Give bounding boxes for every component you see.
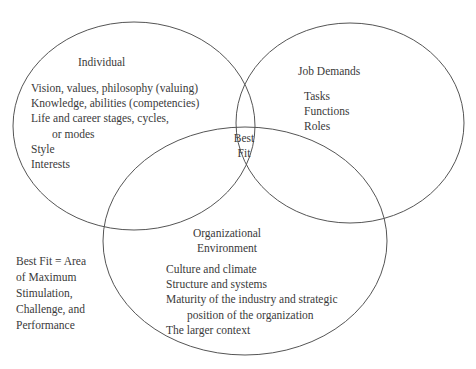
list-item: The larger context	[166, 323, 338, 338]
list-item: Knowledge, abilities (competencies)	[31, 96, 199, 111]
legend-line: Performance	[16, 317, 86, 333]
job-demands-circle	[236, 23, 464, 223]
list-item: Life and career stages, cycles,	[31, 111, 199, 126]
best-fit-line1: Best	[227, 131, 261, 146]
list-item: Structure and systems	[166, 277, 338, 292]
org-title-line1: Organizational	[172, 226, 282, 241]
organizational-environment-items: Culture and climate Structure and system…	[166, 262, 338, 338]
legend-line: Stimulation,	[16, 285, 86, 301]
list-item: Maturity of the industry and strategic	[166, 292, 338, 307]
individual-title: Individual	[78, 55, 125, 70]
organizational-environment-title: Organizational Environment	[172, 226, 282, 256]
best-fit-line2: Fit	[227, 146, 261, 161]
individual-items: Vision, values, philosophy (valuing) Kno…	[31, 81, 199, 172]
legend-line: Best Fit = Area	[16, 253, 86, 269]
list-item: Functions	[304, 104, 349, 119]
list-item: Roles	[304, 119, 349, 134]
list-item: Vision, values, philosophy (valuing)	[31, 81, 199, 96]
list-item: position of the organization	[166, 308, 338, 323]
org-title-line2: Environment	[172, 241, 282, 256]
job-demands-title: Job Demands	[298, 64, 360, 79]
list-item: or modes	[31, 127, 199, 142]
job-demands-items: Tasks Functions Roles	[304, 89, 349, 135]
list-item: Culture and climate	[166, 262, 338, 277]
legend-line: of Maximum	[16, 269, 86, 285]
list-item: Style	[31, 142, 199, 157]
list-item: Tasks	[304, 89, 349, 104]
legend-line: Challenge, and	[16, 301, 86, 317]
best-fit-label: Best Fit	[227, 131, 261, 161]
best-fit-legend: Best Fit = Area of Maximum Stimulation, …	[16, 253, 86, 333]
list-item: Interests	[31, 157, 199, 172]
